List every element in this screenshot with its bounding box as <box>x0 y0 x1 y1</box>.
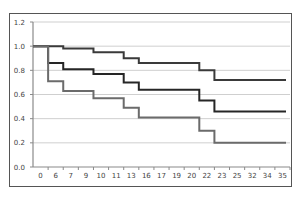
x-tick-label: 22 <box>202 172 211 180</box>
x-tick-label: 35 <box>278 172 287 180</box>
step-line-chart: 0.00.20.40.60.81.01.2 067910111316171920… <box>0 0 304 197</box>
x-tick-label: 0 <box>38 172 42 180</box>
x-tick-label: 23 <box>218 172 227 180</box>
y-tick-label: 0.4 <box>14 115 26 123</box>
x-tick-label: 34 <box>263 172 272 180</box>
y-tick-label: 0.6 <box>14 91 26 99</box>
gridlines <box>33 22 290 143</box>
x-tick-label: 13 <box>127 172 136 180</box>
x-tick-label: 32 <box>248 172 257 180</box>
y-tick-label: 1.2 <box>14 19 25 27</box>
y-tick-label: 0.8 <box>14 67 25 75</box>
x-tick-label: 19 <box>172 172 181 180</box>
y-axis: 0.00.20.40.60.81.01.2 <box>14 19 33 172</box>
x-tick-label: 25 <box>233 172 242 180</box>
y-tick-label: 0.0 <box>14 164 25 172</box>
x-tick-label: 6 <box>53 172 58 180</box>
x-tick-label: 11 <box>112 172 121 180</box>
y-tick-label: 1.0 <box>14 43 25 51</box>
x-axis: 067910111316171920222325323435 <box>33 167 290 180</box>
series-line-1 <box>33 46 286 80</box>
x-tick-label: 17 <box>157 172 166 180</box>
series-line-2 <box>33 46 286 111</box>
x-tick-label: 9 <box>84 172 88 180</box>
x-tick-label: 10 <box>97 172 106 180</box>
x-tick-label: 16 <box>142 172 151 180</box>
x-tick-label: 20 <box>187 172 196 180</box>
x-tick-label: 7 <box>69 172 73 180</box>
y-tick-label: 0.2 <box>14 139 25 147</box>
